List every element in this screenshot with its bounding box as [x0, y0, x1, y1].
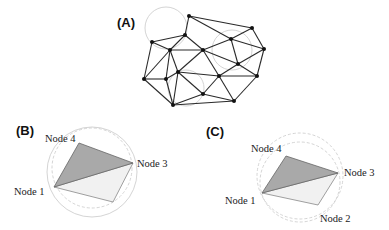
- panel-b: (B) Node 4 Node 3 Node 1: [14, 123, 168, 217]
- panel-b-node4-label: Node 4: [45, 133, 76, 144]
- mesh-edge: [203, 76, 219, 94]
- mesh-node: [183, 33, 187, 37]
- mesh-node: [201, 92, 205, 96]
- mesh-edge: [144, 42, 152, 79]
- mesh-edge: [234, 76, 257, 101]
- mesh-edge: [219, 76, 234, 101]
- panel-a: (A): [117, 7, 266, 107]
- mesh-node: [232, 99, 236, 103]
- mesh-edge: [166, 79, 173, 105]
- mesh-edge: [238, 64, 257, 76]
- mesh-edge: [152, 35, 185, 42]
- panel-c-node2-label: Node 2: [320, 213, 351, 224]
- mesh-node: [236, 62, 240, 66]
- mesh-node: [229, 37, 233, 41]
- panel-c-node3-label: Node 3: [344, 167, 375, 178]
- mesh-edge: [166, 72, 178, 79]
- mesh-node: [164, 77, 168, 81]
- panel-c-node1-label: Node 1: [225, 195, 256, 206]
- mesh-node: [262, 47, 266, 51]
- panel-b-label: (B): [16, 123, 34, 138]
- mesh-edge: [203, 39, 231, 50]
- mesh-node: [150, 40, 154, 44]
- mesh-node: [187, 14, 191, 18]
- mesh-edge: [178, 50, 203, 72]
- mesh-node: [250, 26, 254, 30]
- panel-c: (C) Node 4 Node 3 Node 1 Node 2: [206, 124, 375, 224]
- delaunay-figure: (A) (B) Node 4 Node 3 Node 1 (C) Node 4 …: [0, 0, 389, 230]
- mesh-edge: [185, 35, 203, 50]
- mesh-edge: [238, 49, 264, 64]
- mesh-node: [168, 48, 172, 52]
- mesh-edge: [203, 94, 234, 101]
- mesh-edge: [203, 50, 238, 64]
- mesh-edge: [173, 72, 178, 105]
- panel-b-node3-label: Node 3: [137, 158, 168, 169]
- mesh-edge: [170, 50, 178, 72]
- mesh-node: [201, 48, 205, 52]
- panel-c-node4-label: Node 4: [251, 143, 282, 154]
- mesh-edge: [231, 39, 238, 64]
- panel-b-node1-label: Node 1: [14, 186, 45, 197]
- mesh-node: [142, 77, 146, 81]
- mesh-node: [217, 74, 221, 78]
- panel-c-label: (C): [206, 124, 224, 139]
- mesh-node: [176, 70, 180, 74]
- mesh-edge: [189, 16, 252, 28]
- circumcircle: [212, 30, 252, 70]
- mesh-node: [171, 103, 175, 107]
- mesh-edge: [231, 28, 252, 39]
- mesh-node: [255, 74, 259, 78]
- panel-a-label: (A): [117, 15, 135, 30]
